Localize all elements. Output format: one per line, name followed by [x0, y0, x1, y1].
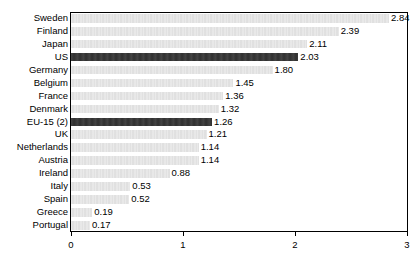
- y-axis-label-sweden: Sweden: [0, 12, 68, 25]
- bar-value-austria: 1.14: [201, 154, 220, 167]
- bar-netherlands: [71, 143, 199, 152]
- y-axis-label-denmark: Denmark: [0, 103, 68, 116]
- x-tick-label: 1: [180, 239, 185, 250]
- bar-row: France1.36: [0, 90, 417, 103]
- bar-row: Italy0.53: [0, 180, 417, 193]
- bar-value-japan: 2.11: [309, 38, 327, 51]
- bar-eu-15-2: [71, 118, 212, 127]
- x-tick-mark: [407, 232, 408, 236]
- x-tick-label: 0: [68, 239, 73, 250]
- bar-row: Denmark1.32: [0, 103, 417, 116]
- bar-austria: [71, 156, 199, 165]
- bar-greece: [71, 208, 92, 217]
- bar-ireland: [71, 169, 170, 178]
- bar-row: Ireland0.88: [0, 167, 417, 180]
- bar-row: Japan2.11: [0, 38, 417, 51]
- bar-japan: [71, 40, 307, 49]
- bar-value-spain: 0.52: [131, 193, 150, 206]
- bar-value-portugal: 0.17: [92, 219, 111, 232]
- bar-value-ireland: 0.88: [172, 167, 191, 180]
- bar-france: [71, 92, 223, 101]
- y-axis-label-eu-15-2: EU-15 (2): [0, 116, 68, 129]
- bar-row: Austria1.14: [0, 154, 417, 167]
- bar-portugal: [71, 221, 90, 230]
- y-axis-label-netherlands: Netherlands: [0, 141, 68, 154]
- y-axis-label-spain: Spain: [0, 193, 68, 206]
- bar-row: Spain0.52: [0, 193, 417, 206]
- x-axis: 0123: [70, 232, 408, 258]
- y-axis-label-austria: Austria: [0, 154, 68, 167]
- bar-us: [71, 53, 298, 62]
- x-tick-mark: [71, 232, 72, 236]
- bar-value-denmark: 1.32: [221, 103, 240, 116]
- bar-row: Portugal0.17: [0, 219, 417, 232]
- bar-value-us: 2.03: [300, 51, 319, 64]
- x-tick-label: 2: [292, 239, 297, 250]
- x-tick-mark: [295, 232, 296, 236]
- bar-finland: [71, 27, 339, 36]
- bar-chart: Sweden2.84Finland2.39Japan2.11US2.03Germ…: [0, 0, 417, 261]
- y-axis-label-portugal: Portugal: [0, 219, 68, 232]
- y-axis-label-ireland: Ireland: [0, 167, 68, 180]
- bar-row: Germany1.80: [0, 64, 417, 77]
- bar-row: UK1.21: [0, 128, 417, 141]
- bar-row: EU-15 (2)1.26: [0, 116, 417, 129]
- bar-row: Sweden2.84: [0, 12, 417, 25]
- bar-germany: [71, 66, 273, 75]
- y-axis-label-greece: Greece: [0, 206, 68, 219]
- bar-row: Finland2.39: [0, 25, 417, 38]
- bar-value-finland: 2.39: [341, 25, 360, 38]
- bar-uk: [71, 130, 207, 139]
- y-axis-label-uk: UK: [0, 128, 68, 141]
- bar-row: Greece0.19: [0, 206, 417, 219]
- y-axis-label-france: France: [0, 90, 68, 103]
- bar-row: Belgium1.45: [0, 77, 417, 90]
- bar-value-netherlands: 1.14: [201, 141, 220, 154]
- bar-value-greece: 0.19: [94, 206, 113, 219]
- bar-value-belgium: 1.45: [235, 77, 254, 90]
- bar-belgium: [71, 79, 233, 88]
- bar-value-eu-15-2: 1.26: [214, 116, 233, 129]
- bar-value-france: 1.36: [225, 90, 244, 103]
- x-tick-label: 3: [404, 239, 409, 250]
- bar-denmark: [71, 105, 219, 114]
- bar-italy: [71, 182, 130, 191]
- bar-spain: [71, 195, 129, 204]
- bar-row: US2.03: [0, 51, 417, 64]
- y-axis-label-finland: Finland: [0, 25, 68, 38]
- bar-value-italy: 0.53: [132, 180, 151, 193]
- y-axis-label-germany: Germany: [0, 64, 68, 77]
- x-tick-mark: [183, 232, 184, 236]
- bar-value-germany: 1.80: [275, 64, 294, 77]
- bar-value-uk: 1.21: [209, 128, 228, 141]
- y-axis-label-us: US: [0, 51, 68, 64]
- bar-row: Netherlands1.14: [0, 141, 417, 154]
- bar-value-sweden: 2.84: [391, 12, 410, 25]
- bar-sweden: [71, 14, 389, 23]
- y-axis-label-japan: Japan: [0, 38, 68, 51]
- y-axis-label-belgium: Belgium: [0, 77, 68, 90]
- y-axis-label-italy: Italy: [0, 180, 68, 193]
